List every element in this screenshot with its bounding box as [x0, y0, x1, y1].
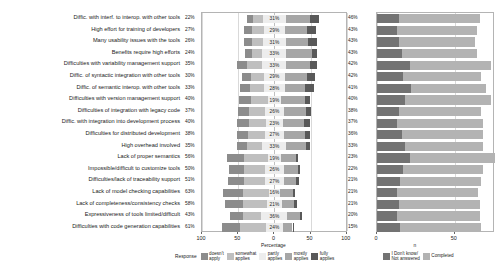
left-percent-label: 37%: [185, 105, 202, 117]
count-segment-completed: [403, 165, 482, 174]
left-percent-label: 38%: [185, 128, 202, 140]
likert-segment-mostly-applies: [283, 223, 292, 231]
count-segment-unanswered: [377, 61, 410, 70]
mid-percent-label: 31%: [264, 14, 284, 23]
count-bar-row: [377, 13, 493, 25]
likert-segment-fully-applies: [293, 223, 294, 231]
legend-swatch-icon: [259, 253, 266, 260]
category-label: Difficulties of integration with legacy …: [0, 105, 183, 117]
left-percent-label: 61%: [185, 221, 202, 233]
legend-swatch-icon: [227, 253, 234, 260]
likert-segment-fully-applies: [293, 189, 295, 197]
x-tick-label: 50: [298, 235, 322, 241]
count-segment-unanswered: [377, 26, 397, 35]
right-percent-label: 46%: [348, 12, 368, 24]
likert-segment-fully-applies: [307, 73, 316, 81]
legend-label: fully applies: [320, 252, 335, 262]
mid-percent-label: 31%: [264, 38, 284, 47]
x-axis-title-right: n: [385, 243, 445, 248]
left-percent-label: 58%: [185, 198, 202, 210]
count-segment-unanswered: [377, 188, 397, 197]
category-label: Difficulties with variability management…: [0, 58, 183, 70]
legend-label: I Don't know/ Not answered: [392, 252, 420, 262]
likert-segment-doesn-t-apply: [240, 84, 249, 92]
count-segment-completed: [400, 223, 481, 232]
likert-segment-mostly-applies: [286, 142, 306, 150]
likert-bar-row: 26%: [202, 106, 346, 118]
left-percent-label: 24%: [185, 47, 202, 59]
left-percent-label: 56%: [185, 151, 202, 163]
category-label: Diffic. of semantic interop. with other …: [0, 82, 183, 94]
left-percent-label: 33%: [185, 82, 202, 94]
likert-segment-mostly-applies: [285, 84, 305, 92]
legend-label: Completed: [431, 254, 453, 259]
count-segment-unanswered: [377, 95, 405, 104]
likert-segment-somewhat-applies: [244, 177, 265, 185]
x-tick-label: 0: [364, 235, 388, 241]
count-segment-completed: [410, 61, 491, 70]
legend-item[interactable]: I Don't know/ Not answered: [383, 252, 420, 262]
count-bar-row: [377, 175, 493, 187]
right-percent-label: 21%: [348, 186, 368, 198]
legend-item[interactable]: partly applies: [259, 252, 282, 262]
legend-item[interactable]: doesn't apply: [201, 252, 224, 262]
mid-percent-label: 29%: [264, 26, 284, 35]
right-percent-label: 42%: [348, 58, 368, 70]
likert-segment-doesn-t-apply: [237, 131, 248, 139]
category-label: Difficulties with code generation capabi…: [0, 221, 183, 233]
count-segment-unanswered: [377, 107, 399, 116]
likert-segment-doesn-t-apply: [244, 38, 251, 46]
likert-segment-mostly-applies: [286, 38, 308, 46]
right-percent-label: 42%: [348, 70, 368, 82]
likert-segment-mostly-applies: [284, 107, 306, 115]
counts-plot-panel: [376, 12, 494, 232]
count-segment-completed: [405, 142, 483, 151]
tick-mark: [454, 232, 455, 234]
likert-segment-somewhat-applies: [244, 165, 265, 173]
x-tick-label: 50: [225, 235, 249, 241]
right-percent-label: 43%: [348, 47, 368, 59]
right-percent-label: 43%: [348, 24, 368, 36]
likert-segment-fully-applies: [305, 84, 314, 92]
count-bar-row: [377, 117, 493, 129]
legend-item[interactable]: Completed: [423, 253, 454, 260]
count-bar-row: [377, 25, 493, 37]
likert-segment-somewhat-applies: [247, 142, 263, 150]
likert-bar-row: 29%: [202, 71, 346, 83]
left-percent-label: 22%: [185, 12, 202, 24]
likert-segment-fully-applies: [310, 15, 319, 23]
likert-segment-mostly-applies: [286, 61, 309, 69]
likert-bar-row: 16%: [202, 187, 346, 199]
count-segment-unanswered: [377, 119, 397, 128]
likert-bar-row: 36%: [202, 210, 346, 222]
right-percent-label: 40%: [348, 93, 368, 105]
mid-percent-label: 26%: [264, 107, 284, 116]
likert-bar-row: 31%: [202, 13, 346, 25]
count-segment-unanswered: [377, 72, 403, 81]
legend-item[interactable]: mostly applies: [285, 252, 308, 262]
x-tick-label: 100: [334, 235, 358, 241]
count-bar-row: [377, 199, 493, 211]
likert-segment-somewhat-applies: [251, 73, 264, 81]
right-percent-label: 43%: [348, 35, 368, 47]
likert-bar-row: 24%: [202, 222, 346, 234]
legend-item[interactable]: somewhat applies: [227, 252, 256, 262]
likert-segment-mostly-applies: [286, 15, 310, 23]
legend-label: partly applies: [268, 252, 283, 262]
right-percent-label: 20%: [348, 209, 368, 221]
mid-percent-label: 21%: [264, 200, 284, 209]
category-label: Diffic. with integration into developmen…: [0, 116, 183, 128]
likert-segment-somewhat-applies: [243, 212, 261, 220]
legend-item[interactable]: fully applies: [311, 252, 334, 262]
mid-percent-label: 27%: [264, 177, 284, 186]
likert-segment-doesn-t-apply: [230, 212, 243, 220]
mid-percent-label: 26%: [264, 165, 284, 174]
likert-segment-doesn-t-apply: [237, 142, 246, 150]
likert-segment-somewhat-applies: [252, 26, 264, 34]
likert-segment-doesn-t-apply: [222, 223, 241, 231]
legend-label: somewhat applies: [235, 252, 256, 262]
likert-segment-fully-applies: [305, 131, 310, 139]
likert-segment-mostly-applies: [284, 165, 298, 173]
legend-label: mostly applies: [294, 252, 309, 262]
likert-segment-fully-applies: [310, 61, 317, 69]
